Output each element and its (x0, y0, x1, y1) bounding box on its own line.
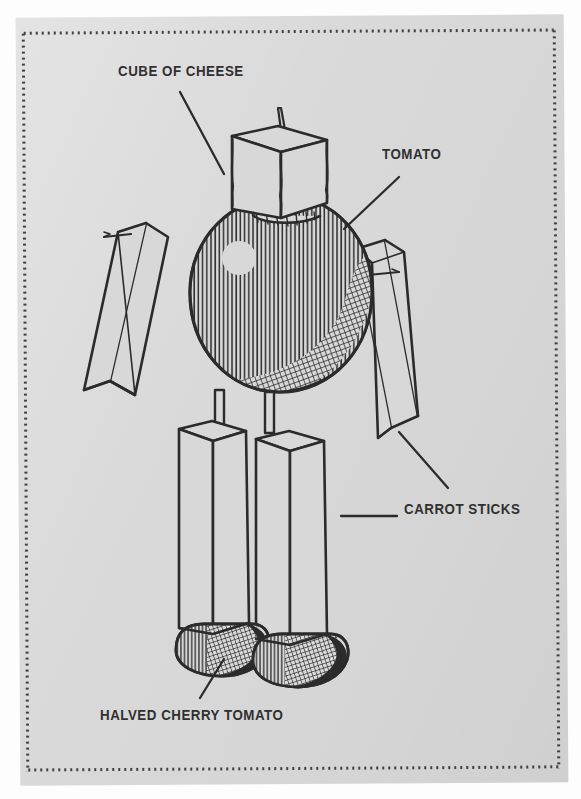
label-tomato: TOMATO (382, 146, 441, 162)
leader-line-tomato (344, 177, 399, 229)
label-cube-of-cheese: CUBE OF CHEESE (118, 63, 244, 79)
screenshot-root: CUBE OF CHEESE TOMATO CARROT STICKS HALV… (0, 0, 581, 799)
leg-left-carrot-stick (179, 421, 249, 634)
arm-left-carrot-stick (84, 223, 168, 395)
head-cube-of-cheese (232, 108, 328, 218)
veggie-figure-illustration (0, 0, 581, 799)
label-carrot-sticks: CARROT STICKS (404, 501, 520, 517)
foot-right-halved-cherry-tomato (248, 630, 348, 692)
label-halved-cherry-tomato: HALVED CHERRY TOMATO (100, 707, 283, 723)
leader-line-carrot-sticks-diagonal (399, 432, 448, 488)
leader-line-cube-of-cheese (180, 92, 224, 174)
leg-right-carrot-stick (256, 431, 327, 645)
